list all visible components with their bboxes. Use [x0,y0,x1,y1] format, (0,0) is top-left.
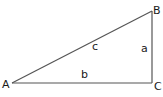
side-label-c: c [92,40,98,53]
side-label-a: a [141,42,148,55]
right-triangle-diagram: A B C c a b [0,0,163,97]
side-label-b: b [81,68,88,81]
vertex-label-c: C [154,80,162,93]
vertex-label-b: B [153,4,161,17]
vertex-label-a: A [2,78,10,91]
